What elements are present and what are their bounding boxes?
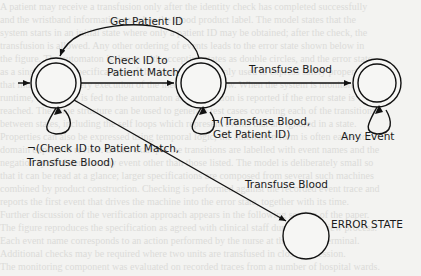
label-check-id-line1: Check ID to bbox=[107, 54, 168, 66]
label-transfuse-blood-to-error: Transfuse Blood bbox=[245, 178, 328, 190]
label-loop-s2-line1: ¬(Transfuse Blood, bbox=[211, 115, 310, 127]
label-loop-s1-line2: Transfuse Blood) bbox=[27, 156, 114, 168]
label-any-event: Any Event bbox=[341, 130, 394, 142]
label-error-state: ERROR STATE bbox=[331, 218, 403, 230]
state-s3 bbox=[353, 59, 401, 107]
label-loop-s1-line1: ¬(Check ID to Patient Match, bbox=[27, 142, 179, 154]
state-s1 bbox=[31, 58, 81, 108]
state-error bbox=[283, 213, 329, 259]
label-check-id-line2: Patient Match bbox=[107, 66, 179, 78]
label-transfuse-blood-s2-s3: Transfuse Blood bbox=[249, 63, 332, 75]
label-loop-s2-line2: Get Patient ID) bbox=[213, 128, 290, 140]
state-s2 bbox=[176, 58, 226, 108]
label-get-patient-id: Get Patient ID bbox=[110, 15, 183, 27]
